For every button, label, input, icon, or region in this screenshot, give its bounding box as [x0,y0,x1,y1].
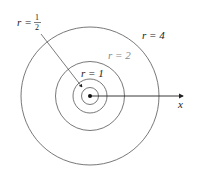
label-r-half-var: r [17,16,22,28]
label-r-half-num: 1 [35,13,39,22]
label-r-half-eq: = [25,16,31,28]
label-r-1: r = 1 [81,67,104,79]
x-axis-label: x [177,98,183,110]
concentric-circles-diagram: x r = 1 2 r = 1 r = 2 r = 4 [0,0,200,181]
origin-point [88,94,92,98]
label-r-2: r = 2 [108,49,131,61]
label-r-4: r = 4 [142,29,165,41]
label-r-half-den: 2 [35,23,39,32]
pointer-line-r-half [41,34,82,87]
